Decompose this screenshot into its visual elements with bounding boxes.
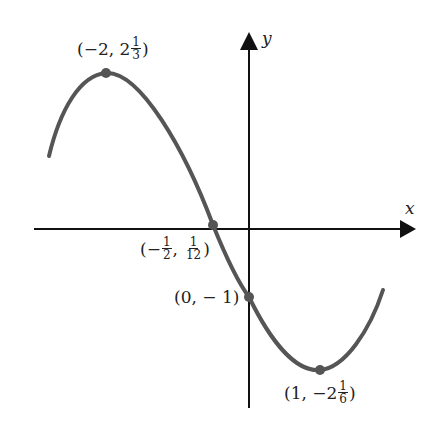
x-intercept-point [208, 220, 218, 230]
x-axis-label: x [405, 198, 415, 218]
x-intercept-label-close: ) [203, 239, 210, 259]
denominator: 2 [162, 249, 172, 261]
local-maximum-label-close: ) [142, 39, 149, 59]
fraction: 1 6 [338, 380, 348, 405]
local-maximum-point [101, 68, 111, 78]
fraction: 1 2 [162, 236, 172, 261]
local-maximum-label: (−2, 2 1 3 ) [77, 36, 149, 61]
local-minimum-label-text: (1, −2 [284, 383, 337, 403]
x-intercept-label-comma: , [173, 239, 178, 259]
local-minimum-label: (1, −2 1 6 ) [284, 380, 356, 405]
x-intercept-label-open: (− [140, 239, 161, 259]
denominator: 6 [338, 393, 348, 405]
y-intercept-point [244, 292, 254, 302]
y-intercept-label: (0, − 1) [174, 287, 239, 307]
local-minimum-label-close: ) [349, 383, 356, 403]
local-maximum-label-text: (−2, 2 [77, 39, 130, 59]
denominator: 3 [131, 49, 141, 61]
x-intercept-label: (− 1 2 , 1 12 ) [140, 236, 210, 261]
x-axis-arrow-icon [400, 220, 416, 238]
local-minimum-point [315, 365, 325, 375]
y-axis-arrow-icon [240, 32, 258, 50]
function-graph [0, 0, 441, 432]
denominator: 12 [185, 249, 202, 261]
y-intercept-label-text: (0, − 1) [174, 287, 239, 307]
y-axis-label: y [262, 28, 272, 48]
fraction: 1 12 [185, 236, 202, 261]
fraction: 1 3 [131, 36, 141, 61]
